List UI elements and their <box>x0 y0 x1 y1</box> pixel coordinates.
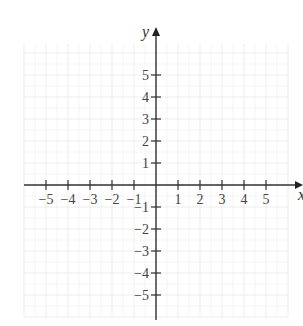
x-tick-label: 1 <box>175 192 182 207</box>
x-tick-label: −4 <box>61 192 76 207</box>
axes <box>24 27 303 320</box>
coordinate-plane: −5−4−3−2−11234554321−1−2−3−4−5 y x <box>0 0 303 326</box>
y-tick-label: 3 <box>142 112 149 127</box>
y-tick-label: 1 <box>142 156 149 171</box>
y-axis-arrow-icon <box>152 27 160 36</box>
y-tick-label: −1 <box>134 200 149 215</box>
x-tick-label: 4 <box>241 192 248 207</box>
x-axis-label: x <box>297 186 303 203</box>
y-tick-label: 2 <box>142 134 149 149</box>
x-tick-label: −2 <box>105 192 120 207</box>
x-tick-label: −3 <box>83 192 98 207</box>
y-tick-label: 5 <box>142 68 149 83</box>
x-tick-label: −5 <box>39 192 54 207</box>
y-tick-label: −5 <box>134 288 149 303</box>
y-tick-label: −2 <box>134 222 149 237</box>
x-tick-label: 3 <box>219 192 226 207</box>
x-tick-label: 5 <box>263 192 270 207</box>
x-tick-label: 2 <box>197 192 204 207</box>
y-tick-label: 4 <box>142 90 149 105</box>
y-tick-label: −4 <box>134 266 149 281</box>
y-tick-label: −3 <box>134 244 149 259</box>
y-axis-label: y <box>140 23 150 41</box>
